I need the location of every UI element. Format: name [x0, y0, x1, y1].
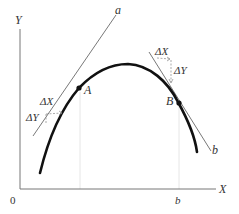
delta-x-label-left: ΔX: [39, 95, 54, 107]
curve-diagram: Y X 0 b a b A B ΔX ΔY ΔX ΔY: [0, 0, 239, 214]
delta-x-arrow-right: [157, 58, 170, 59]
delta-x-label-right: ΔX: [154, 45, 169, 57]
y-axis-label: Y: [15, 13, 23, 27]
tangent-label-b: b: [212, 143, 218, 157]
x-axis-label: X: [218, 182, 227, 196]
x-tick-label-b: b: [175, 194, 181, 206]
delta-y-label-left: ΔY: [25, 111, 40, 123]
tangent-label-a: a: [115, 3, 121, 17]
point-label-b: B: [166, 94, 174, 108]
point-label-a: A: [83, 83, 92, 97]
point-a-marker: [76, 85, 81, 90]
tangent-line-a: [33, 15, 116, 136]
origin-label: 0: [10, 194, 16, 206]
delta-y-label-right: ΔY: [173, 64, 188, 76]
curve: [40, 64, 197, 173]
point-b-marker: [176, 100, 181, 105]
